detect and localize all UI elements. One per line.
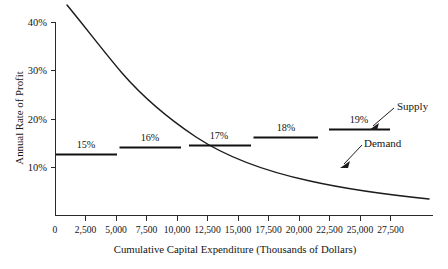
x-tick-label-5000: 5,000 bbox=[105, 224, 127, 235]
y-tick-labels-group: 40% 30% 20% 10% bbox=[28, 17, 48, 173]
demand-leader-line bbox=[344, 145, 362, 164]
x-tick-label-20000: 20,000 bbox=[286, 224, 313, 235]
x-tick-label-27500: 27,500 bbox=[377, 224, 404, 235]
y-tick-label-30: 30% bbox=[28, 65, 48, 76]
x-tick-label-15000: 15,000 bbox=[225, 224, 252, 235]
x-tick-label-25000: 25,000 bbox=[347, 224, 374, 235]
x-tick-label-12500: 12,500 bbox=[194, 224, 221, 235]
supply-annotation: Supply bbox=[369, 100, 429, 130]
x-axis-title: Cumulative Capital Expenditure (Thousand… bbox=[114, 243, 357, 256]
supply-label: Supply bbox=[397, 100, 429, 112]
y-ticks-group bbox=[51, 23, 56, 168]
chart-canvas: 40% 30% 20% 10% 0 2,500 5,000 7,500 10,0… bbox=[0, 0, 448, 269]
step-label-16: 16% bbox=[141, 132, 160, 143]
demand-label: Demand bbox=[364, 137, 402, 149]
x-tick-label-0: 0 bbox=[53, 224, 58, 235]
x-tick-label-17500: 17,500 bbox=[255, 224, 282, 235]
step-label-19: 19% bbox=[350, 114, 369, 125]
step-label-17: 17% bbox=[210, 130, 229, 141]
demand-arrow-icon bbox=[340, 161, 350, 168]
step-label-18: 18% bbox=[277, 122, 296, 133]
y-axis-title: Annual Rate of Profit bbox=[13, 71, 25, 164]
step-label-15: 15% bbox=[77, 139, 96, 150]
x-tick-label-2500: 2,500 bbox=[75, 224, 97, 235]
chart-container: 40% 30% 20% 10% 0 2,500 5,000 7,500 10,0… bbox=[0, 0, 448, 269]
y-tick-label-10: 10% bbox=[28, 162, 48, 173]
demand-annotation: Demand bbox=[340, 137, 402, 168]
x-ticks-group bbox=[86, 216, 391, 222]
axis-group bbox=[56, 22, 434, 216]
y-tick-label-20: 20% bbox=[28, 114, 48, 125]
x-tick-labels-group: 0 2,500 5,000 7,500 10,000 12,500 15,000… bbox=[53, 224, 404, 235]
supply-leader-line bbox=[373, 108, 394, 126]
x-tick-label-7500: 7,500 bbox=[136, 224, 158, 235]
x-tick-label-22500: 22,500 bbox=[316, 224, 343, 235]
demand-curve bbox=[67, 5, 429, 199]
x-tick-label-10000: 10,000 bbox=[164, 224, 191, 235]
y-tick-label-40: 40% bbox=[28, 17, 48, 28]
